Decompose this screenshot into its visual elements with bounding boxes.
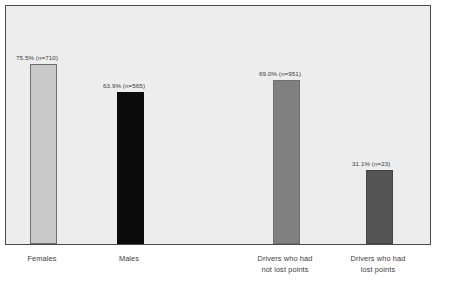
bar-chart-figure: 75.5% (n=710)63.9% (n=565)69.0% (n=951)3… (0, 0, 452, 288)
bar-value-label: 69.0% (n=951) (259, 70, 301, 78)
bar (273, 80, 300, 244)
category-label: Drivers who had not lost points (242, 254, 328, 275)
bar-value-label: 63.9% (n=565) (103, 82, 145, 90)
category-label: Females (0, 254, 85, 265)
bar-value-label: 75.5% (n=710) (16, 54, 58, 62)
bar (30, 64, 57, 244)
category-label: Drivers who had lost points (335, 254, 421, 275)
bar-value-label: 31.1% (n=23) (352, 160, 391, 168)
category-label: Males (86, 254, 172, 265)
bar (117, 92, 144, 244)
bar (366, 170, 393, 244)
plot-area: 75.5% (n=710)63.9% (n=565)69.0% (n=951)3… (5, 5, 431, 245)
